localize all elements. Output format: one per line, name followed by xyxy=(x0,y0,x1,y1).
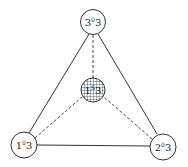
node-bottom-right: 203 xyxy=(150,134,176,160)
node-bottom-left: 103 xyxy=(11,132,37,158)
tetrahedral-diagram: 303 1S3 103 203 xyxy=(0,0,188,167)
edge-top-bottom-right xyxy=(98,34,157,134)
edge-top-bottom-left xyxy=(29,34,89,133)
edge-bottom-left-bottom-right xyxy=(37,145,150,146)
node-top: 303 xyxy=(81,10,106,35)
edge-bottom-right-center xyxy=(104,97,152,139)
node-center: 1S3 xyxy=(81,78,105,102)
edge-bottom-left-center xyxy=(35,97,82,138)
